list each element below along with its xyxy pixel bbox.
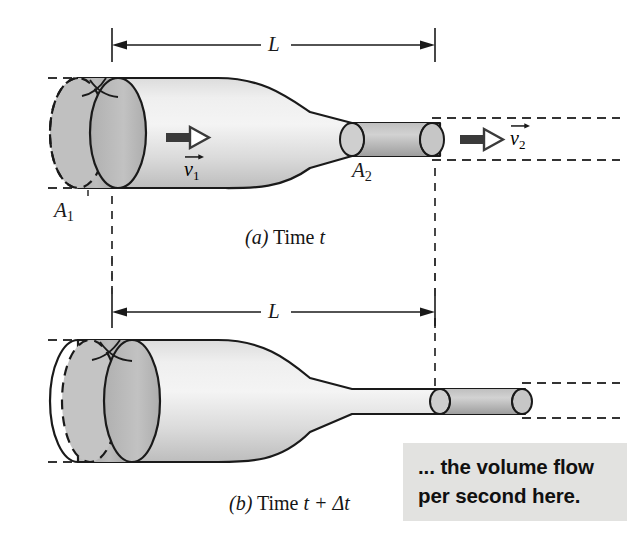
panel-a-group: [48, 28, 620, 300]
dim-arrowhead-left-a: [112, 41, 127, 50]
velocity-label-v1-text: v1: [184, 158, 199, 180]
velocity-label-v2-text: v2: [510, 127, 525, 149]
physics-figure-fluid-continuity: L L A1 A2 v1 v2 (a) Time t (b) Time t + …: [0, 0, 627, 550]
panel-b-caption-var: t + Δt: [303, 492, 349, 514]
dimension-label-L-b: L: [268, 299, 280, 324]
panel-b-caption-text: Time: [257, 492, 299, 514]
velocity-label-v2-letter: v: [510, 127, 519, 149]
callout-line-1: ... the volume flow: [418, 452, 618, 481]
callout-line-2: per second here.: [418, 481, 618, 510]
velocity-label-v2: v2: [510, 128, 525, 151]
dim-arrowhead-right-b: [420, 308, 435, 317]
velocity-label-v1-letter: v: [184, 158, 193, 180]
vector-arrow-overbar-v1: [185, 152, 204, 160]
area-label-A1-sub: 1: [67, 208, 74, 224]
area-label-A1-letter: A: [54, 198, 67, 222]
area-label-A2: A2: [352, 158, 372, 185]
narrow-slab-fill-b: [440, 389, 522, 414]
panel-b-group: [48, 258, 620, 462]
panel-a-caption-text: Time: [273, 226, 315, 248]
wide-end-front-ellipse-a: [90, 78, 146, 188]
velocity-arrow-v2: [460, 129, 503, 150]
wide-end-front-ellipse-b: [104, 340, 160, 462]
velocity-label-v1: v1: [184, 159, 199, 182]
panel-a-caption-var: t: [319, 226, 325, 248]
dimension-label-L-a: L: [268, 32, 280, 57]
dim-arrowhead-right-a: [420, 41, 435, 50]
panel-b-caption-marker: (b): [229, 492, 252, 514]
panel-a-caption-marker: (a): [245, 226, 268, 248]
vector-arrow-overbar-v2: [511, 121, 530, 129]
area-label-A2-sub: 2: [365, 168, 372, 184]
callout-text: ... the volume flow per second here.: [418, 452, 618, 510]
area-label-A1: A1: [54, 198, 74, 225]
dim-arrowhead-left-b: [112, 308, 127, 317]
velocity-label-v2-sub: 2: [519, 137, 526, 152]
velocity-label-v1-sub: 1: [193, 168, 200, 183]
area-label-A2-letter: A: [352, 158, 365, 182]
panel-a-caption: (a) Time t: [245, 226, 325, 249]
panel-b-caption: (b) Time t + Δt: [229, 492, 350, 515]
